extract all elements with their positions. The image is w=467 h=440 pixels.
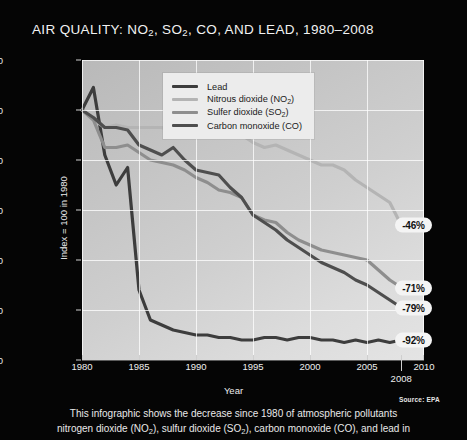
- x-axis-tick-mark: [253, 355, 254, 360]
- y-axis-tick-label: 80: [0, 155, 3, 166]
- legend-label-no2: Nitrous dioxide (NO2): [207, 94, 294, 105]
- caption-line-2: nitrogen dioxide (NO2), sulfur dioxide (…: [57, 423, 410, 434]
- x-axis-tick-mark: [310, 355, 311, 360]
- y-axis-label: Index = 100 in 1980: [58, 176, 69, 260]
- y-axis-tick-label: 40: [0, 255, 3, 266]
- y-axis-tick-label: 20: [0, 305, 3, 316]
- legend-swatch-so2: [172, 111, 198, 115]
- gridline-vertical: [423, 60, 424, 360]
- y-axis-tick-label: 120: [0, 55, 3, 66]
- legend-item-so2: Sulfer dioxide (SO2): [172, 106, 302, 119]
- legend-label-lead: Lead: [207, 82, 227, 92]
- legend-item-co: Carbon monoxide (CO): [172, 119, 302, 132]
- x-axis-tick-mark: [82, 355, 83, 360]
- legend-label-co: Carbon monoxide (CO): [207, 121, 302, 131]
- x-axis-tick-label: 2000: [299, 361, 320, 372]
- y-axis-tick-mark: [76, 110, 81, 111]
- infographic-root: AIR QUALITY: NO2, SO2, CO, AND LEAD, 198…: [0, 0, 467, 440]
- y-axis-tick-mark: [76, 160, 81, 161]
- legend-item-lead: Lead: [172, 80, 302, 93]
- caption-text: This infographic shows the decrease sinc…: [0, 406, 467, 439]
- x-axis-tick-mark-2008: [401, 355, 402, 371]
- legend-swatch-lead: [172, 85, 198, 89]
- chart-container: Index = 100 in 1980 Year 020406080100120…: [0, 55, 467, 380]
- co-change-badge: -79%: [395, 300, 432, 315]
- caption-line-1: This infographic shows the decrease sinc…: [70, 408, 397, 419]
- x-axis-tick-label: 1980: [71, 361, 92, 372]
- y-axis-tick-mark: [76, 260, 81, 261]
- legend-label-so2: Sulfer dioxide (SO2): [207, 107, 289, 118]
- y-axis-tick-label: 60: [0, 205, 3, 216]
- x-axis-tick-label: 2010: [413, 361, 434, 372]
- x-axis-tick-label: 2005: [356, 361, 377, 372]
- page-title: AIR QUALITY: NO2, SO2, CO, AND LEAD, 198…: [32, 22, 374, 38]
- x-axis-tick-mark: [196, 355, 197, 360]
- legend-swatch-co: [172, 124, 198, 128]
- chart-legend: Lead Nitrous dioxide (NO2) Sulfer dioxid…: [163, 73, 314, 139]
- gridline-vertical: [139, 60, 140, 360]
- gridline-vertical: [82, 60, 83, 360]
- x-axis-tick-mark: [367, 355, 368, 360]
- x-axis-tick-mark: [423, 355, 424, 360]
- gridline-vertical: [367, 60, 368, 360]
- x-axis-tick-mark: [139, 355, 140, 360]
- so2-change-badge: -71%: [395, 280, 432, 295]
- y-axis-tick-mark: [76, 310, 81, 311]
- no2-change-badge: -46%: [395, 218, 432, 233]
- x-axis-tick-label: 1995: [242, 361, 263, 372]
- y-axis-tick-mark: [76, 210, 81, 211]
- lead-change-badge: -92%: [395, 333, 432, 348]
- source-note: Source: EPA: [399, 396, 440, 403]
- x-axis-tick-label-2008: 2008: [391, 373, 412, 384]
- legend-swatch-no2: [172, 98, 198, 102]
- x-axis-tick-label: 1990: [185, 361, 206, 372]
- legend-item-no2: Nitrous dioxide (NO2): [172, 93, 302, 106]
- y-axis-tick-mark: [76, 60, 81, 61]
- y-axis-tick-label: 0: [0, 355, 3, 366]
- x-axis-tick-label: 1985: [128, 361, 149, 372]
- y-axis-tick-label: 100: [0, 105, 3, 116]
- x-axis-label: Year: [0, 385, 467, 396]
